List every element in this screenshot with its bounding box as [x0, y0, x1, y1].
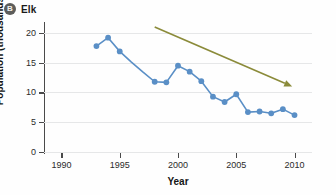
trend-arrow-annotation — [44, 24, 312, 152]
y-tick-label: 10 — [26, 87, 36, 97]
x-tick — [236, 153, 237, 158]
y-tick-label: 5 — [31, 117, 36, 127]
x-tick-label: 1990 — [51, 160, 71, 170]
x-tick-label: 2005 — [226, 160, 246, 170]
panel-label: B Elk — [4, 3, 37, 15]
y-tick-label: 0 — [31, 147, 36, 157]
y-tick-label: 15 — [26, 58, 36, 68]
x-tick — [120, 153, 121, 158]
x-tick — [295, 153, 296, 158]
x-tick-label: 1995 — [110, 160, 130, 170]
elk-population-chart: B Elk Population (thousands) Year 051015… — [0, 0, 336, 195]
y-axis-title: Population (thousands) — [0, 0, 5, 125]
x-axis-title: Year — [44, 176, 312, 187]
y-tick-label: 20 — [26, 28, 36, 38]
x-tick-label: 2000 — [168, 160, 188, 170]
plot-area: 05101520 — [44, 24, 312, 152]
x-tick — [178, 153, 179, 158]
x-tick — [61, 153, 62, 158]
x-axis-ticks: 19901995200020052010 — [44, 153, 312, 175]
x-tick-label: 2010 — [285, 160, 305, 170]
panel-badge: B — [4, 3, 16, 15]
page-title: Elk — [21, 4, 37, 15]
arrow-shaft — [155, 27, 285, 83]
